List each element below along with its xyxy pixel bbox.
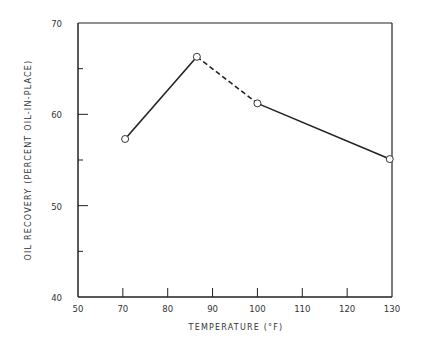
- x-tick-label: 70: [117, 303, 128, 314]
- data-point-marker: [122, 135, 129, 142]
- series-segment: [257, 103, 389, 159]
- y-axis-ticks: [78, 69, 88, 252]
- series-segment: [125, 57, 197, 139]
- x-axis-tick-labels: 50708090100110120130: [73, 303, 401, 314]
- data-series-lines: [125, 57, 390, 159]
- data-point-marker: [386, 156, 393, 163]
- x-axis-title: TEMPERATURE (°F): [188, 323, 284, 332]
- chart: 50708090100110120130 40506070 TEMPERATUR…: [0, 0, 423, 347]
- series-segment: [197, 57, 258, 104]
- x-tick-label: 110: [294, 303, 310, 314]
- x-tick-label: 80: [162, 303, 173, 314]
- x-tick-label: 120: [339, 303, 355, 314]
- data-point-marker: [254, 100, 261, 107]
- y-tick-label: 70: [51, 18, 62, 29]
- y-tick-label: 60: [51, 109, 62, 120]
- x-tick-label: 50: [73, 303, 84, 314]
- x-axis-ticks: [123, 288, 347, 297]
- x-tick-label: 100: [249, 303, 265, 314]
- y-axis-tick-labels: 40506070: [51, 18, 62, 303]
- data-point-markers: [122, 53, 394, 162]
- x-tick-label: 130: [384, 303, 400, 314]
- y-tick-label: 40: [51, 292, 62, 303]
- plot-frame: [78, 23, 392, 297]
- y-tick-label: 50: [51, 201, 62, 212]
- x-tick-label: 90: [207, 303, 218, 314]
- y-axis-title: OIL RECOVERY (PERCENT OIL-IN-PLACE): [24, 60, 33, 261]
- data-point-marker: [193, 53, 200, 60]
